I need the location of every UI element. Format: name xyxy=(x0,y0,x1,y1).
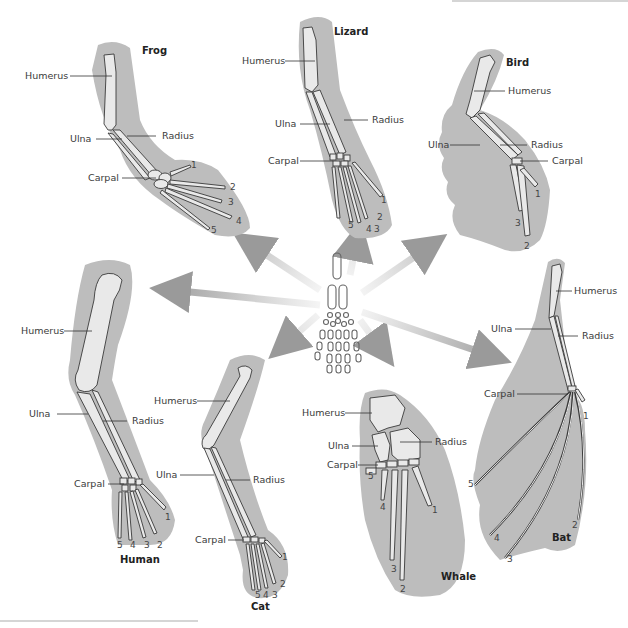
frog-ulna-label: Ulna xyxy=(70,133,91,144)
bat-ulna-label: Ulna xyxy=(491,323,512,334)
bat-carpal-label: Carpal xyxy=(484,388,515,399)
cat-digit-1: 1 xyxy=(282,552,288,562)
whale-carpal-label: Carpal xyxy=(327,459,358,470)
frog-digit-1: 1 xyxy=(191,160,197,170)
cat-title: Cat xyxy=(251,601,270,612)
lizard-digit-2: 2 xyxy=(377,212,383,222)
whale-digit-5: 5 xyxy=(368,471,374,481)
human-carpal-label: Carpal xyxy=(74,478,105,489)
whale-title: Whale xyxy=(441,571,476,582)
frog-limb: Frog Humerus Ulna Radius Carpal 1 2 3 4 … xyxy=(25,42,250,236)
lizard-radius-label: Radius xyxy=(372,114,404,125)
arrow-to-lizard xyxy=(350,240,357,275)
arrow-to-cat xyxy=(284,315,318,345)
frog-title: Frog xyxy=(142,45,167,56)
human-digit-2: 2 xyxy=(157,540,163,550)
lizard-limb: Lizard Humerus Ulna Radius Carpal 1 2 3 … xyxy=(242,17,404,238)
cat-limb: Humerus Ulna Radius Carpal 1 2 3 4 5 Cat xyxy=(154,355,288,612)
cat-carpal-label: Carpal xyxy=(195,534,226,545)
bird-digit-1: 1 xyxy=(535,189,541,199)
lizard-ulna-label: Ulna xyxy=(275,118,296,129)
human-radius-label: Radius xyxy=(132,415,164,426)
cat-humerus-label: Humerus xyxy=(154,395,197,406)
frog-radius-label: Radius xyxy=(162,130,194,141)
cat-radius-label: Radius xyxy=(253,474,285,485)
frog-digit-4: 4 xyxy=(236,216,242,226)
bird-title: Bird xyxy=(506,57,529,68)
human-humerus-label: Humerus xyxy=(21,325,64,336)
arrow-to-bird xyxy=(362,246,430,293)
lizard-digit-5: 5 xyxy=(348,220,354,230)
bat-humerus-label: Humerus xyxy=(574,285,617,296)
bat-limb: Humerus Ulna Radius Carpal 1 2 3 4 5 Bat xyxy=(468,259,617,564)
frog-carpal-label: Carpal xyxy=(88,172,119,183)
whale-ulna-label: Ulna xyxy=(328,440,349,451)
whale-humerus-label: Humerus xyxy=(302,407,345,418)
frog-digit-3: 3 xyxy=(228,197,234,207)
homology-diagram: Frog Humerus Ulna Radius Carpal 1 2 3 4 … xyxy=(0,0,628,628)
bird-ulna-label: Ulna xyxy=(428,139,449,150)
lizard-carpal-label: Carpal xyxy=(268,155,299,166)
human-digit-5: 5 xyxy=(117,540,123,550)
human-limb: Humerus Ulna Radius Carpal 1 2 3 4 5 Hum… xyxy=(21,260,175,565)
lizard-humerus-label: Humerus xyxy=(242,55,285,66)
whale-radius-label: Radius xyxy=(435,436,467,447)
whale-digit-2: 2 xyxy=(400,584,406,594)
bat-digit-5: 5 xyxy=(468,479,474,489)
frog-digit-5: 5 xyxy=(211,225,217,235)
cat-digit-2: 2 xyxy=(280,579,286,589)
bat-title: Bat xyxy=(552,532,571,543)
arrow-to-frog xyxy=(250,244,320,290)
whale-limb: Humerus Ulna Radius Carpal 1 2 3 4 5 Wha… xyxy=(302,389,476,596)
frog-digit-2: 2 xyxy=(230,182,236,192)
lizard-digit-4: 4 xyxy=(366,224,372,234)
cat-digit-4: 4 xyxy=(263,590,269,600)
human-digit-1: 1 xyxy=(165,512,171,522)
bat-digit-1: 1 xyxy=(583,411,589,421)
whale-digit-4: 4 xyxy=(380,502,386,512)
human-digit-4: 4 xyxy=(130,540,136,550)
bird-digit-3: 3 xyxy=(515,218,521,228)
human-title: Human xyxy=(120,554,160,565)
human-digit-3: 3 xyxy=(144,540,150,550)
cat-digit-5: 5 xyxy=(255,590,261,600)
bat-digit-4: 4 xyxy=(494,533,500,543)
whale-digit-1: 1 xyxy=(432,505,438,515)
bird-carpal-label: Carpal xyxy=(552,155,583,166)
whale-digit-3: 3 xyxy=(391,564,397,574)
lizard-digit-3: 3 xyxy=(374,224,380,234)
human-ulna-label: Ulna xyxy=(29,408,50,419)
bat-digit-2: 2 xyxy=(572,520,578,530)
frog-humerus-label: Humerus xyxy=(25,70,68,81)
bird-radius-label: Radius xyxy=(531,139,563,150)
arrow-to-human xyxy=(170,290,320,305)
bird-digit-2: 2 xyxy=(524,241,530,251)
cat-ulna-label: Ulna xyxy=(156,469,177,480)
lizard-title: Lizard xyxy=(334,26,368,37)
bat-digit-3: 3 xyxy=(507,554,513,564)
lizard-digit-1: 1 xyxy=(381,195,387,205)
cat-digit-3: 3 xyxy=(272,590,278,600)
bird-limb: Bird Humerus Ulna Radius Carpal 1 2 3 xyxy=(428,49,583,251)
arrow-to-whale xyxy=(360,320,382,350)
bat-radius-label: Radius xyxy=(582,330,614,341)
bird-humerus-label: Humerus xyxy=(508,85,551,96)
